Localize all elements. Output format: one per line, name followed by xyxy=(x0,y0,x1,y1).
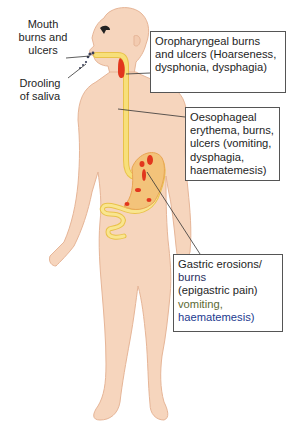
stomach-lesion xyxy=(147,198,152,202)
stomach-lesion xyxy=(142,169,146,181)
callout-line: Oropharyngeal burns xyxy=(155,35,281,48)
stomach-lesion xyxy=(140,161,145,167)
label-line: Mouth xyxy=(18,18,68,31)
label-line: Drooling xyxy=(14,77,66,90)
callout-line: and ulcers (Hoarseness, xyxy=(155,48,281,61)
diagram: Mouth burns and ulcers Drooling of saliv… xyxy=(0,0,290,433)
callout-line: Gastric erosions/ xyxy=(178,258,278,271)
label-line: burns and xyxy=(18,31,68,44)
label-drooling: Drooling of saliva xyxy=(14,77,66,103)
callout-line: haematemesis) xyxy=(178,311,278,324)
label-mouth-burns: Mouth burns and ulcers xyxy=(18,18,68,57)
callout-line: Oesophageal xyxy=(190,111,275,124)
callout-line: dysphonia, dysphagia) xyxy=(155,61,281,74)
callout-line: haematemesis) xyxy=(190,164,275,177)
callout-line: vomiting, xyxy=(178,298,278,311)
stomach-lesion xyxy=(135,188,141,192)
callout-gastric: Gastric erosions/ burns (epigastric pain… xyxy=(173,254,283,332)
label-line: of saliva xyxy=(14,90,66,103)
callout-oropharyngeal: Oropharyngeal burns and ulcers (Hoarsene… xyxy=(150,31,286,93)
label-line: ulcers xyxy=(18,44,68,57)
callout-line: (epigastric pain) xyxy=(178,284,278,297)
callout-line: dysphagia, xyxy=(190,151,275,164)
stomach-lesion xyxy=(147,155,153,165)
callout-oesophageal: Oesophageal erythema, burns, ulcers (vom… xyxy=(185,107,280,181)
stomach-lesion xyxy=(125,202,130,206)
callout-line: erythema, burns, xyxy=(190,124,275,137)
callout-line: ulcers (vomiting, xyxy=(190,137,275,150)
callout-line: burns xyxy=(178,271,278,284)
